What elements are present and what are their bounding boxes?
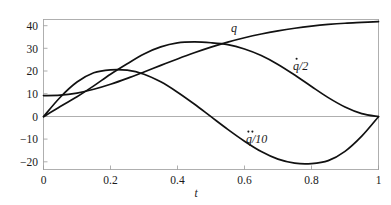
x-tick-label: 1 — [376, 174, 382, 186]
y-tick-label: 40 — [27, 20, 39, 32]
annotation-label-qddot: q/10 — [246, 132, 267, 146]
y-tick-label: 30 — [27, 43, 39, 55]
y-tick-label: 0 — [32, 111, 38, 123]
x-tick-label: 0 — [41, 174, 47, 186]
chart-figure: 40 30 20 10 0 −10 −20 0 0.2 0.4 0.6 0.8 … — [0, 0, 391, 205]
ddot-accent-right-qddot-icon — [251, 131, 253, 133]
y-tick-label: −10 — [20, 133, 38, 145]
x-tick-label: 0.6 — [237, 174, 252, 186]
y-tick-label: 20 — [27, 65, 39, 77]
line-chart-plot: 40 30 20 10 0 −10 −20 0 0.2 0.4 0.6 0.8 … — [0, 0, 391, 205]
x-tick-label: 0.2 — [103, 174, 118, 186]
curve-annotation-q: q — [231, 21, 237, 35]
y-tick-label: 10 — [27, 88, 39, 100]
x-tick-label: 0.8 — [304, 174, 319, 186]
x-tick-label: 0.4 — [170, 174, 185, 186]
ddot-accent-left-qddot-icon — [247, 131, 249, 133]
curve-annotation-qdot: q/2 — [293, 58, 308, 73]
curve-annotation-qddot: q/10 — [246, 131, 267, 146]
annotation-label-q: q — [231, 21, 237, 35]
annotation-label-qdot: q/2 — [293, 59, 308, 73]
y-tick-label: −20 — [20, 156, 38, 168]
chart-background — [0, 0, 391, 205]
dot-accent-qdot-icon — [296, 58, 298, 60]
